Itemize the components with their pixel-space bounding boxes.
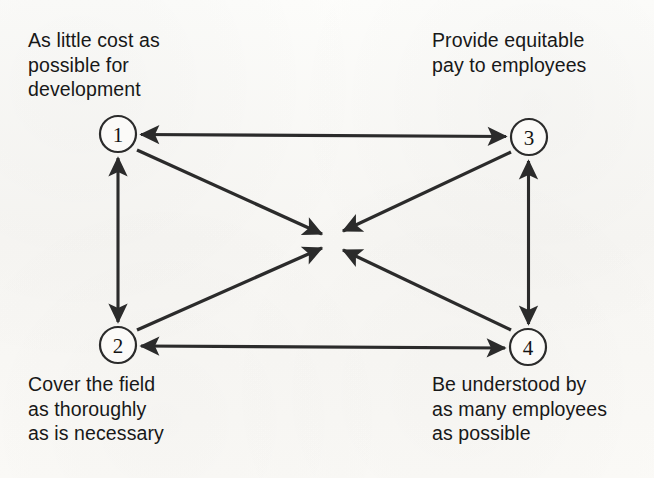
node-3-label: 3 [524,126,535,150]
node-3-caption: Provide equitable pay to employees [432,28,586,77]
edge-4-center [343,250,511,330]
node-1-caption: As little cost as possible for developme… [28,28,160,102]
node-2-label: 2 [113,334,124,358]
edge-1-3 [141,135,506,137]
node-4-caption: Be understood by as many employees as po… [432,372,607,446]
node-2[interactable]: 2 [100,327,136,363]
node-2-caption: Cover the field as thoroughly as is nece… [28,372,164,446]
node-1-label: 1 [113,123,124,147]
node-4-label: 4 [523,336,534,360]
edge-2-center [137,248,322,330]
edge-1-center [137,150,322,234]
node-3[interactable]: 3 [511,119,547,155]
node-4[interactable]: 4 [510,329,546,365]
diagram-page: 1 3 2 4 As little cost as possible for d… [0,0,654,478]
edge-3-center [343,152,511,231]
node-1[interactable]: 1 [100,116,136,152]
edge-2-4 [141,346,505,348]
